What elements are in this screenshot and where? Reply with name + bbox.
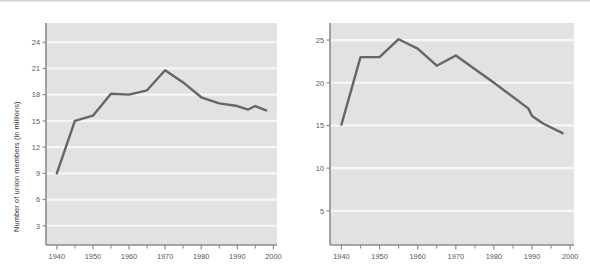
plot-area-union-members-percentage: 5101520251940195019601970198019902000: [295, 0, 590, 279]
chart-union-members-count: 3691215182124194019501960197019801990200…: [0, 0, 295, 279]
chart-union-members-percentage: 5101520251940195019601970198019902000 Un…: [295, 0, 590, 279]
x-tick-label-1960: 1960: [409, 252, 425, 261]
x-tick-label-1950: 1950: [371, 252, 387, 261]
y-tick-label-21: 21: [32, 64, 40, 73]
plot-area-union-members-count: 3691215182124194019501960197019801990200…: [0, 0, 295, 279]
x-tick-label-2000: 2000: [265, 252, 281, 261]
y-tick-label-15: 15: [32, 117, 40, 126]
x-tick-label-2000: 2000: [562, 252, 578, 261]
y-tick-label-24: 24: [32, 38, 40, 47]
x-tick-label-1970: 1970: [157, 252, 173, 261]
y-tick-label-5: 5: [320, 207, 324, 216]
x-tick-label-1990: 1990: [229, 252, 245, 261]
x-tick-label-1940: 1940: [49, 252, 65, 261]
y-tick-label-15: 15: [316, 121, 324, 130]
y-tick-label-25: 25: [316, 36, 324, 45]
x-tick-label-1950: 1950: [85, 252, 101, 261]
y-tick-label-18: 18: [32, 90, 40, 99]
y-tick-label-20: 20: [316, 79, 324, 88]
y-tick-label-9: 9: [36, 169, 40, 178]
y-tick-label-12: 12: [32, 143, 40, 152]
x-tick-label-1970: 1970: [448, 252, 464, 261]
plot-background: [46, 23, 277, 245]
x-tick-label-1960: 1960: [121, 252, 137, 261]
x-tick-label-1980: 1980: [486, 252, 502, 261]
y-tick-label-10: 10: [316, 164, 324, 173]
y-tick-label-3: 3: [36, 222, 40, 231]
x-tick-label-1980: 1980: [193, 252, 209, 261]
y-tick-label-6: 6: [36, 195, 40, 204]
y-axis-label-left: Number of union members (in millions): [12, 101, 21, 232]
x-tick-label-1940: 1940: [333, 252, 349, 261]
x-tick-label-1990: 1990: [524, 252, 540, 261]
